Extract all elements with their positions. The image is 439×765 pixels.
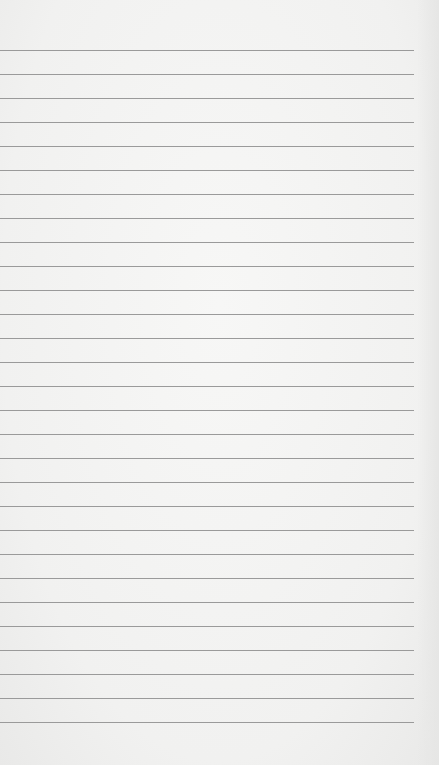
ruled-line [0,530,414,531]
ruled-line [0,506,414,507]
ruled-line [0,242,414,243]
ruled-line [0,602,414,603]
ruled-line [0,578,414,579]
ruled-line [0,650,414,651]
ruled-line [0,194,414,195]
ruled-line [0,98,414,99]
ruled-line [0,122,414,123]
ruled-line [0,554,414,555]
ruled-line [0,410,414,411]
ruled-line [0,386,414,387]
ruled-line [0,170,414,171]
ruled-line [0,338,414,339]
ruled-line [0,362,414,363]
ruled-line [0,290,414,291]
ruled-line [0,50,414,51]
ruled-line [0,218,414,219]
ruled-line [0,722,414,723]
ruled-line [0,314,414,315]
ruled-line [0,626,414,627]
ruled-line [0,74,414,75]
ruled-line [0,698,414,699]
ruled-line [0,434,414,435]
ruled-line [0,674,414,675]
ruled-line [0,458,414,459]
paper-edge-shadow [417,0,439,765]
ruled-line [0,146,414,147]
ruled-line [0,266,414,267]
ruled-line [0,482,414,483]
lined-paper [0,0,439,765]
